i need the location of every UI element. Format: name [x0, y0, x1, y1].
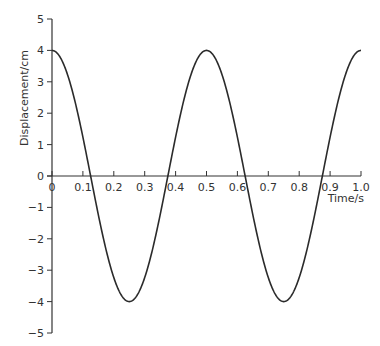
- y-tick-label: 2: [37, 107, 44, 120]
- y-tick-label: −4: [28, 296, 44, 309]
- y-tick-label: 3: [37, 76, 44, 89]
- y-tick-label: 0: [37, 170, 44, 183]
- y-tick-label: 1: [37, 139, 44, 152]
- y-tick-label: −3: [28, 264, 44, 277]
- y-tick-label: −1: [28, 201, 44, 214]
- y-tick-label: −2: [28, 233, 44, 246]
- y-tick-label: 4: [37, 44, 44, 57]
- x-tick-label: 0.3: [136, 181, 154, 194]
- x-tick-label: 0.7: [260, 181, 278, 194]
- x-axis-label: Time/s: [327, 192, 365, 205]
- displacement-time-chart: −5−4−3−2−1012345 00.10.20.30.40.50.60.70…: [0, 0, 380, 346]
- x-tick-label: 0.5: [198, 181, 216, 194]
- x-tick-label: 0.4: [167, 181, 185, 194]
- x-tick-label: 0.8: [290, 181, 308, 194]
- x-tick-label: 0.1: [74, 181, 92, 194]
- x-tick-label: 0: [49, 181, 56, 194]
- x-tick-label: 0.6: [229, 181, 247, 194]
- y-tick-label: 5: [37, 13, 44, 26]
- x-tick-label: 0.2: [105, 181, 123, 194]
- y-tick-label: −5: [28, 327, 44, 340]
- y-axis-label: Displacement/cm: [18, 50, 31, 146]
